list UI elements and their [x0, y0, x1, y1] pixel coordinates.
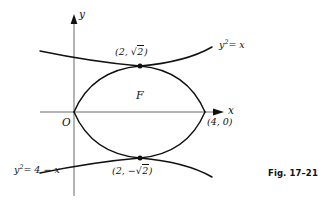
radical-icon: √	[131, 46, 137, 57]
x-axis	[40, 108, 224, 115]
x-axis-arrow-icon	[213, 108, 224, 115]
y-axis-label: y	[79, 9, 85, 20]
figure-container: y x O F (2, √2) (2, −√2) (4, 0) y2= x y2…	[0, 0, 322, 207]
lower-intersection-open: (2, −	[112, 165, 136, 176]
y-axis	[71, 14, 78, 196]
lower-intersection-radicand: 2	[142, 164, 149, 176]
x-axis-label: x	[228, 105, 234, 116]
eqn-right-rhs: = x	[228, 39, 244, 50]
origin-label: O	[62, 117, 71, 128]
upper-intersection-radicand: 2	[137, 45, 144, 57]
radical-icon-2: √	[136, 165, 142, 176]
eqn-left-rhs: = 4 − x	[23, 164, 59, 175]
upper-intersection-close: )	[144, 46, 148, 57]
lower-intersection-close: )	[149, 165, 153, 176]
figure-caption: Fig. 17–21	[268, 168, 318, 178]
region-label-F: F	[136, 90, 144, 101]
point-marker-upper-intersection	[138, 64, 143, 69]
x-intercept-label: (4, 0)	[207, 117, 233, 127]
upper-intersection-label: (2, √2)	[115, 47, 148, 57]
point-marker-lower-intersection	[138, 156, 143, 161]
y-axis-arrow-icon	[71, 14, 78, 24]
equation-label-parabola-right: y2= x	[219, 40, 245, 50]
upper-intersection-open: (2,	[115, 46, 131, 57]
equation-label-parabola-left: y2= 4 − x	[14, 165, 60, 175]
lower-intersection-label: (2, −√2)	[112, 166, 153, 176]
